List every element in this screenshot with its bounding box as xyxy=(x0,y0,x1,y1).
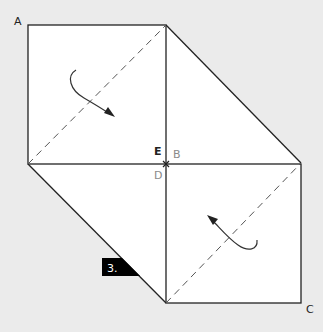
label-e: E xyxy=(154,145,162,158)
step-badge-label: 3. xyxy=(107,262,118,275)
label-b: B xyxy=(173,148,181,161)
origami-fold-diagram: 3. A E B D C xyxy=(0,0,323,332)
label-d: D xyxy=(154,169,162,182)
label-c: C xyxy=(306,303,314,316)
label-a: A xyxy=(14,15,22,28)
